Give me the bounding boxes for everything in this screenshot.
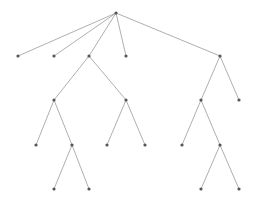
tree-node bbox=[237, 98, 240, 101]
tree-node bbox=[124, 98, 127, 101]
tree-edges bbox=[18, 13, 239, 189]
tree-node bbox=[70, 143, 73, 146]
tree-node bbox=[16, 54, 19, 57]
tree-node bbox=[87, 187, 90, 190]
tree-edge bbox=[54, 56, 89, 100]
tree-edge bbox=[107, 100, 126, 145]
tree-edge bbox=[54, 145, 72, 189]
tree-node bbox=[114, 11, 117, 14]
tree-node bbox=[237, 187, 240, 190]
tree-nodes bbox=[16, 11, 240, 190]
tree-edge bbox=[220, 145, 239, 189]
tree-edge bbox=[201, 56, 220, 100]
tree-edge bbox=[54, 13, 116, 56]
tree-edge bbox=[116, 13, 126, 56]
tree-node bbox=[124, 54, 127, 57]
tree-edge bbox=[201, 145, 220, 189]
tree-edge bbox=[18, 13, 116, 56]
tree-node bbox=[180, 143, 183, 146]
tree-edge bbox=[36, 100, 54, 145]
tree-edge bbox=[54, 100, 72, 145]
tree-node bbox=[87, 54, 90, 57]
tree-edge bbox=[116, 13, 220, 56]
tree-node bbox=[34, 143, 37, 146]
tree-diagram bbox=[0, 0, 254, 202]
tree-edge bbox=[126, 100, 145, 145]
tree-node bbox=[143, 143, 146, 146]
tree-edge bbox=[72, 145, 89, 189]
tree-edge bbox=[201, 100, 220, 145]
tree-node bbox=[105, 143, 108, 146]
tree-node bbox=[52, 98, 55, 101]
tree-edge bbox=[89, 56, 126, 100]
tree-node bbox=[199, 98, 202, 101]
tree-edge bbox=[220, 56, 239, 100]
tree-node bbox=[218, 143, 221, 146]
tree-edge bbox=[182, 100, 201, 145]
tree-node bbox=[218, 54, 221, 57]
tree-node bbox=[52, 54, 55, 57]
tree-node bbox=[52, 187, 55, 190]
tree-edge bbox=[89, 13, 116, 56]
tree-node bbox=[199, 187, 202, 190]
